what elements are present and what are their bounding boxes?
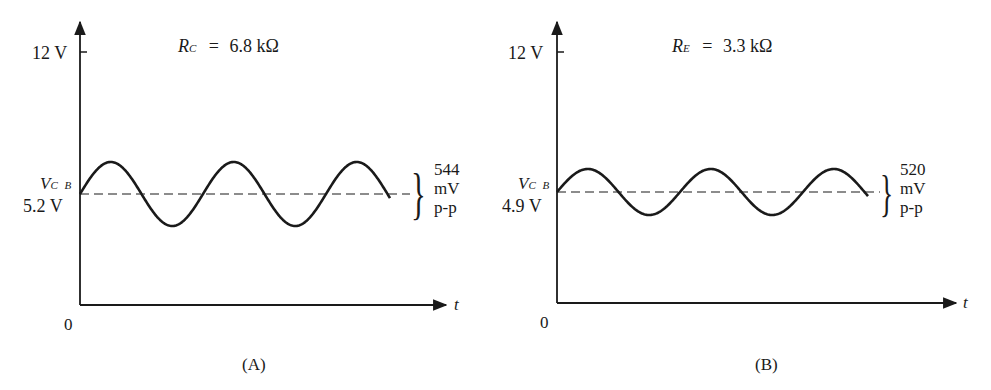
- panel-b-ac-unit: mV: [900, 179, 926, 198]
- panel-a-ac-mode: p-p: [434, 198, 460, 217]
- panel-b-dc-symbol: VC B: [518, 175, 551, 192]
- panel-a-ac-value: 544: [434, 160, 460, 179]
- panel-a-dc-symbol-letter: V: [40, 174, 50, 193]
- panel-a-plot: [80, 22, 446, 305]
- panel-a-x-label: t: [454, 296, 459, 313]
- panel-b-parameter: RE = 3.3 kΩ: [672, 36, 772, 57]
- panel-b-caption: (B): [755, 355, 778, 375]
- panel-a-ac-annotation: 544 mV p-p: [434, 160, 460, 217]
- panel-b-param-symbol: R: [672, 36, 683, 56]
- panel-b-dc-value: 4.9 V: [502, 197, 542, 215]
- panel-a-dc-symbol: VC B: [40, 175, 73, 192]
- panel-a-y-top-label: 12 V: [32, 44, 67, 62]
- panel-a-param-symbol: R: [178, 36, 189, 56]
- panel-b-origin-label: 0: [540, 314, 549, 331]
- panel-b-ac-value: 520: [900, 160, 926, 179]
- panel-b-param-equals: =: [702, 36, 712, 56]
- panel-b-dc-symbol-letter: V: [518, 174, 528, 193]
- panel-b-brace: }: [880, 168, 893, 218]
- panel-b-param-subscript: E: [683, 42, 692, 54]
- panel-b-dc-symbol-subscript: C B: [528, 179, 551, 191]
- panel-b-y-top-label: 12 V: [508, 44, 543, 62]
- panel-a-dc-value: 5.2 V: [23, 197, 63, 215]
- panel-a-param-subscript: C: [189, 42, 198, 54]
- panel-b-plot: [557, 22, 956, 303]
- panel-a-param-value: 6.8 kΩ: [230, 36, 279, 56]
- panel-a-caption: (A): [242, 355, 266, 375]
- panel-a-ac-unit: mV: [434, 179, 460, 198]
- panel-a-param-equals: =: [209, 36, 219, 56]
- panel-b-param-value: 3.3 kΩ: [723, 36, 772, 56]
- panel-b-ac-mode: p-p: [900, 198, 926, 217]
- panel-a-origin-label: 0: [64, 316, 73, 333]
- panel-a-dc-symbol-subscript: C B: [50, 179, 73, 191]
- panel-b-ac-annotation: 520 mV p-p: [900, 160, 926, 217]
- panel-b-x-label: t: [963, 294, 968, 311]
- panel-a-brace: }: [411, 166, 426, 222]
- panel-a-parameter: RC = 6.8 kΩ: [178, 36, 279, 57]
- figure-canvas: [0, 0, 991, 390]
